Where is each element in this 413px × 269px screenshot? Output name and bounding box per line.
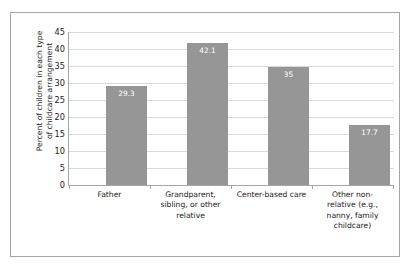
- x-axis-label-line: sibling, or other: [150, 200, 231, 210]
- y-tick-label: 5: [31, 164, 65, 172]
- y-axis-tick-labels: 45 40 35 30 25 20 15 10 5 0: [21, 32, 65, 185]
- y-tick-label: 40: [31, 45, 65, 53]
- x-axis-label-father: Father: [69, 190, 150, 200]
- bar-father[interactable]: 29.3: [106, 86, 147, 185]
- x-axis-label-line: childcare): [312, 221, 393, 231]
- bar-center-based-care[interactable]: 35: [268, 67, 309, 185]
- gridline: [69, 66, 394, 67]
- x-axis-tick: [312, 185, 313, 189]
- y-tick-label: 20: [31, 113, 65, 121]
- bar-value-label: 29.3: [106, 90, 147, 98]
- y-tick-label: 45: [31, 28, 65, 36]
- x-axis-label-line: Grandparent,: [150, 190, 231, 200]
- y-tick-label: 35: [31, 62, 65, 70]
- x-axis-label-grandparent: Grandparent, sibling, or other relative: [150, 190, 231, 221]
- y-tick-label: 30: [31, 79, 65, 87]
- x-axis-tick: [231, 185, 232, 189]
- x-axis-category-labels: Father Grandparent, sibling, or other re…: [69, 190, 394, 252]
- plot-area: 29.3 42.1 35 17.7: [69, 32, 394, 185]
- x-axis-label-line: relative: [150, 211, 231, 221]
- gridline: [69, 32, 394, 33]
- bar-other-non-relative[interactable]: 17.7: [349, 125, 390, 185]
- x-axis-tick: [69, 185, 70, 189]
- y-tick-label: 25: [31, 96, 65, 104]
- x-axis-label-line: nanny, family: [312, 211, 393, 221]
- bar-value-label: 35: [268, 71, 309, 79]
- y-tick-label: 10: [31, 147, 65, 155]
- x-axis-label-other-non-relative: Other non- relative (e.g., nanny, family…: [312, 190, 393, 232]
- x-axis-label-line: Father: [69, 190, 150, 200]
- x-axis-label-line: Center-based care: [231, 190, 312, 200]
- gridline: [69, 83, 394, 84]
- bar-value-label: 17.7: [349, 129, 390, 137]
- bar-grandparent-sibling-other-relative[interactable]: 42.1: [187, 43, 228, 185]
- y-tick-label: 0: [31, 181, 65, 189]
- bar-value-label: 42.1: [187, 47, 228, 55]
- x-axis-tick: [393, 185, 394, 189]
- x-axis-label-center-based-care: Center-based care: [231, 190, 312, 200]
- gridline: [69, 49, 394, 50]
- chart-container: Percent of children in each type of chil…: [10, 12, 400, 257]
- x-axis-tick: [150, 185, 151, 189]
- x-axis-label-line: relative (e.g.,: [312, 200, 393, 210]
- y-tick-label: 15: [31, 130, 65, 138]
- x-axis-label-line: Other non-: [312, 190, 393, 200]
